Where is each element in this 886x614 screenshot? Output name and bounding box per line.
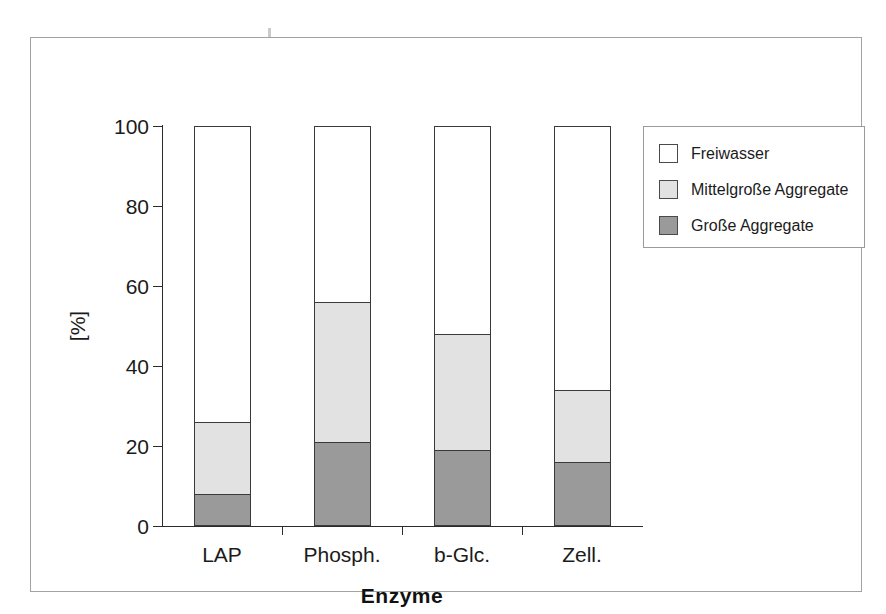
bar-segment (434, 126, 491, 334)
bar-segment (314, 442, 371, 526)
y-tick-label: 80 (126, 196, 149, 217)
y-tick (153, 206, 162, 207)
bar-segment (434, 450, 491, 526)
y-tick-label: 0 (137, 516, 149, 537)
legend-label: Große Aggregate (691, 218, 814, 234)
legend-swatch (659, 144, 678, 163)
y-tick-label: 100 (114, 116, 149, 137)
bar-segment (194, 494, 251, 526)
bar-segment (194, 422, 251, 494)
bar-segment (194, 126, 251, 422)
bar-stack (194, 126, 251, 526)
x-tick-label: Phosph. (303, 544, 380, 565)
bar-segment (554, 126, 611, 390)
legend-label: Freiwasser (691, 146, 769, 162)
legend-item: Große Aggregate (659, 216, 814, 235)
x-tick (402, 526, 403, 535)
bar-segment (314, 302, 371, 442)
bar-stack (434, 126, 491, 526)
y-tick-label: 20 (126, 436, 149, 457)
y-tick (153, 126, 162, 127)
legend-item: Freiwasser (659, 144, 769, 163)
legend-label: Mittelgroße Aggregate (691, 182, 848, 198)
bar-stack (314, 126, 371, 526)
y-tick (153, 446, 162, 447)
bar-segment (554, 462, 611, 526)
figure-page: 020406080100 LAPPhosph.b-Glc.Zell. [%] E… (0, 0, 886, 614)
y-axis-title: [%] (66, 311, 90, 341)
x-tick-label: LAP (202, 544, 242, 565)
x-axis-title: Enzyme (361, 584, 443, 608)
y-tick-label: 60 (126, 276, 149, 297)
chart-legend: FreiwasserMittelgroße AggregateGroße Agg… (643, 126, 865, 248)
bar-segment (554, 390, 611, 462)
y-tick (153, 286, 162, 287)
legend-swatch (659, 180, 678, 199)
x-tick (282, 526, 283, 535)
y-tick-label: 40 (126, 356, 149, 377)
bar-segment (314, 126, 371, 302)
x-tick-label: b-Glc. (434, 544, 490, 565)
y-tick (153, 366, 162, 367)
y-axis-line (162, 125, 163, 527)
x-tick-label: Zell. (562, 544, 602, 565)
bar-segment (434, 334, 491, 450)
plot-area: 020406080100 LAPPhosph.b-Glc.Zell. [%] E… (162, 126, 642, 526)
scan-artifact-mark (268, 28, 271, 37)
legend-swatch (659, 216, 678, 235)
figure-frame: 020406080100 LAPPhosph.b-Glc.Zell. [%] E… (30, 37, 862, 592)
legend-item: Mittelgroße Aggregate (659, 180, 848, 199)
bar-stack (554, 126, 611, 526)
y-tick (153, 526, 162, 527)
x-tick (522, 526, 523, 535)
